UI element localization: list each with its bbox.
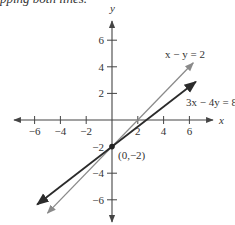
- series-line: [48, 63, 194, 213]
- x-tick-label: −6: [29, 125, 41, 137]
- intercept-point-label: (0,−2): [118, 149, 146, 162]
- y-tick-label: −6: [92, 194, 104, 206]
- x-tick-label: 6: [187, 125, 193, 137]
- x-ticks: −6−4−2246: [29, 116, 193, 137]
- intercept-point: [109, 144, 115, 150]
- y-tick-label: 2: [99, 87, 105, 99]
- y-tick-label: −4: [92, 167, 104, 179]
- equation-label-x-minus-y: x − y = 2: [165, 48, 205, 60]
- x-tick-label: −2: [80, 125, 92, 137]
- y-tick-label: 4: [99, 61, 105, 73]
- y-tick-label-neg2: −2: [92, 141, 104, 153]
- y-tick-label: 6: [99, 34, 105, 46]
- equation-label-3x-minus-4y: 3x − 4y = 8: [186, 96, 235, 108]
- series-line: [37, 82, 196, 205]
- x-tick-label: −4: [55, 125, 67, 137]
- chart: −6−4−2246 642−4−6 x y x − y = 2 3x − 4y …: [0, 0, 235, 225]
- x-axis-label: x: [218, 114, 224, 126]
- x-tick-label: 4: [161, 125, 167, 137]
- series-lines: [37, 63, 196, 213]
- y-axis-label: y: [109, 2, 115, 14]
